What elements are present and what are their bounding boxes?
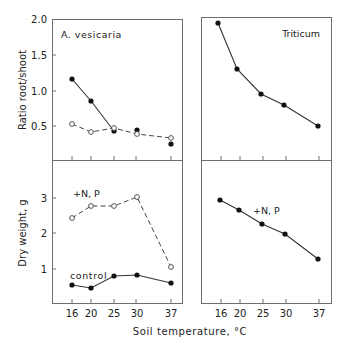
x-tick-label: 30	[131, 308, 144, 319]
y-tick-label: 1	[41, 264, 47, 275]
y-tick-label: 2.0	[31, 14, 47, 25]
y-axis-label-top: Ratio root/shoot	[17, 50, 28, 130]
y-tick-label: 3	[41, 193, 47, 204]
panel-title-a-vesicaria: A. vesicaria	[61, 29, 122, 40]
x-tick-label: 25	[257, 308, 270, 319]
x-tick-label: 16	[215, 308, 228, 319]
y-tick-label: 0.5	[31, 121, 47, 132]
x-tick-label: 16	[66, 308, 79, 319]
y-ticks-bottom: 3 2 1	[41, 193, 56, 275]
x-ticks-left: 16 20 25 30 37	[66, 156, 178, 319]
x-axis-label: Soil temperature, °C	[133, 326, 247, 337]
y-tick-label: 1.5	[31, 50, 47, 61]
x-tick-label: 37	[165, 308, 178, 319]
x-tick-label: 20	[234, 308, 247, 319]
series-a-vesicaria-ratio-np	[70, 122, 174, 141]
y-axis-label-bottom: Dry weight, g	[17, 199, 28, 266]
x-ticks-right: 16 20 25 30 37	[215, 156, 326, 319]
x-tick-label: 37	[313, 308, 326, 319]
label-control: control	[70, 270, 107, 281]
x-tick-label: 25	[108, 308, 121, 319]
label-np-a-vesicaria: +N, P	[73, 188, 100, 199]
x-tick-label: 30	[280, 308, 293, 319]
panel-title-triticum: Triticum	[281, 28, 320, 39]
y-tick-label: 1.0	[31, 86, 47, 97]
series-a-vesicaria-dw-np	[70, 195, 174, 270]
x-tick-label: 20	[85, 308, 98, 319]
figure: 2.0 1.5 1.0 0.5 3 2 1 Ratio root/shoot D…	[0, 0, 347, 349]
y-tick-label: 2	[41, 228, 47, 239]
left-panel-frame	[53, 20, 183, 304]
label-np-triticum: +N, P	[253, 205, 280, 216]
